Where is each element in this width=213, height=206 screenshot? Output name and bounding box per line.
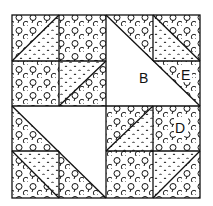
patch-floral	[106, 151, 153, 198]
label-e: E	[181, 67, 190, 83]
patch-floral	[59, 15, 106, 61]
patch-floral	[12, 61, 59, 106]
label-b: B	[139, 70, 148, 86]
quilt-block-diagram: B E D	[0, 0, 213, 206]
label-d: D	[175, 120, 185, 136]
